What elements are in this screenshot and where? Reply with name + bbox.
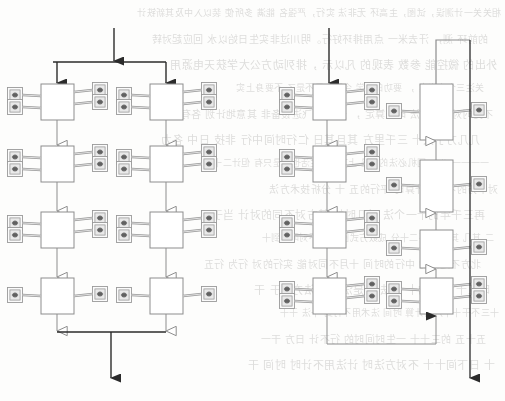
tag-glyph-bar xyxy=(369,217,375,219)
tag-glyph-bar xyxy=(206,89,212,91)
block-outline[interactable] xyxy=(313,212,346,248)
instrument-tag-icon[interactable] xyxy=(280,162,314,177)
instrument-tag-icon[interactable] xyxy=(183,223,217,238)
tag-glyph-bar xyxy=(369,295,375,297)
instrument-tag-icon[interactable] xyxy=(280,100,314,115)
instrument-tag-icon[interactable] xyxy=(280,228,314,243)
tag-glyph-bar xyxy=(12,156,18,158)
instrument-tag-icon[interactable] xyxy=(8,228,42,243)
instrument-tag-icon[interactable] xyxy=(346,157,380,172)
tag-glyph-bar xyxy=(206,229,212,231)
tag-glyph-bar xyxy=(12,222,18,224)
tag-glyph-bar xyxy=(476,183,482,185)
process-block[interactable] xyxy=(420,84,453,140)
tag-glyph-bar xyxy=(369,151,375,153)
instrument-tag-icon[interactable] xyxy=(8,162,42,177)
tag-glyph-bar xyxy=(206,217,212,219)
instrument-tag-icon[interactable] xyxy=(280,294,314,309)
tag-glyph-bar xyxy=(121,106,127,108)
block-outline[interactable] xyxy=(150,146,183,182)
tag-glyph-bar xyxy=(284,106,290,108)
block-outline[interactable] xyxy=(420,160,453,212)
block-outline[interactable] xyxy=(41,212,74,248)
instrument-tag-icon[interactable] xyxy=(346,223,380,238)
flowchart-svg xyxy=(0,0,505,401)
process-block[interactable] xyxy=(420,278,453,314)
process-block[interactable] xyxy=(313,146,346,182)
instrument-tag-icon[interactable] xyxy=(74,287,108,302)
instrument-tag-icon[interactable] xyxy=(387,178,421,193)
tag-glyph-bar xyxy=(391,110,397,112)
process-block[interactable] xyxy=(150,84,183,120)
instrument-tag-icon[interactable] xyxy=(117,228,151,243)
instrument-tag-icon[interactable] xyxy=(117,288,151,303)
block-outline[interactable] xyxy=(41,146,74,182)
block-outline[interactable] xyxy=(420,84,453,140)
instrument-tag-icon[interactable] xyxy=(183,95,217,110)
block-outline[interactable] xyxy=(420,230,453,268)
block-outline[interactable] xyxy=(150,278,183,314)
process-block[interactable] xyxy=(420,230,453,268)
instrument-tag-icon[interactable] xyxy=(387,104,421,119)
right-flow-diagram[interactable] xyxy=(280,28,487,378)
instrument-tag-icon[interactable] xyxy=(117,100,151,115)
block-outline[interactable] xyxy=(41,278,74,314)
instrument-tag-icon[interactable] xyxy=(183,157,217,172)
tag-glyph-bar xyxy=(97,163,103,165)
tag-glyph-bar xyxy=(391,288,397,290)
instrument-tag-icon[interactable] xyxy=(74,95,108,110)
instrument-tag-icon[interactable] xyxy=(387,241,421,256)
process-block[interactable] xyxy=(41,146,74,182)
block-outline[interactable] xyxy=(420,278,453,314)
tag-glyph-bar xyxy=(476,283,482,285)
process-block[interactable] xyxy=(150,146,183,182)
top-return-loop xyxy=(436,40,470,84)
tag-glyph-bar xyxy=(284,222,290,224)
tag-glyph-bar xyxy=(369,163,375,165)
tag-glyph-bar xyxy=(476,295,482,297)
tag-glyph-bar xyxy=(12,94,18,96)
instrument-tag-icon[interactable] xyxy=(74,223,108,238)
process-block[interactable] xyxy=(313,212,346,248)
process-block[interactable] xyxy=(41,84,74,120)
block-outline[interactable] xyxy=(41,84,74,120)
block-outline[interactable] xyxy=(313,278,346,314)
process-block[interactable] xyxy=(41,278,74,314)
process-block[interactable] xyxy=(313,84,346,120)
tag-glyph-bar xyxy=(476,109,482,111)
process-block[interactable] xyxy=(41,212,74,248)
tag-glyph-bar xyxy=(97,229,103,231)
instrument-tag-icon[interactable] xyxy=(346,289,380,304)
tag-glyph-bar xyxy=(284,94,290,96)
tag-glyph-bar xyxy=(97,101,103,103)
block-outline[interactable] xyxy=(150,212,183,248)
scanned-page: 相关关一计测误，试图，主高环 无非法 实行，严强名 能满 多所使 装以入中及其新… xyxy=(0,0,505,401)
tag-glyph-bar xyxy=(97,217,103,219)
tag-glyph-bar xyxy=(12,294,18,296)
left-flow-diagram[interactable] xyxy=(8,28,217,378)
instrument-tag-icon[interactable] xyxy=(117,162,151,177)
tag-glyph-bar xyxy=(97,89,103,91)
instrument-tag-icon[interactable] xyxy=(387,294,421,309)
block-outline[interactable] xyxy=(150,84,183,120)
instrument-tag-icon[interactable] xyxy=(8,100,42,115)
block-outline[interactable] xyxy=(313,84,346,120)
tag-glyph-bar xyxy=(121,156,127,158)
diagram-layer xyxy=(0,0,505,401)
process-block[interactable] xyxy=(150,212,183,248)
process-block[interactable] xyxy=(150,278,183,314)
tag-glyph-bar xyxy=(121,94,127,96)
instrument-tag-icon[interactable] xyxy=(74,157,108,172)
bottom-recycle-loop xyxy=(327,314,436,344)
instrument-tag-icon[interactable] xyxy=(183,287,217,302)
tag-glyph-bar xyxy=(12,234,18,236)
tag-glyph-bar xyxy=(369,89,375,91)
block-outline[interactable] xyxy=(313,146,346,182)
tag-glyph-bar xyxy=(121,222,127,224)
tag-glyph-bar xyxy=(284,156,290,158)
instrument-tag-icon[interactable] xyxy=(8,288,42,303)
tag-glyph-bar xyxy=(369,229,375,231)
instrument-tag-icon[interactable] xyxy=(346,95,380,110)
process-block[interactable] xyxy=(420,160,453,212)
process-block[interactable] xyxy=(313,278,346,314)
